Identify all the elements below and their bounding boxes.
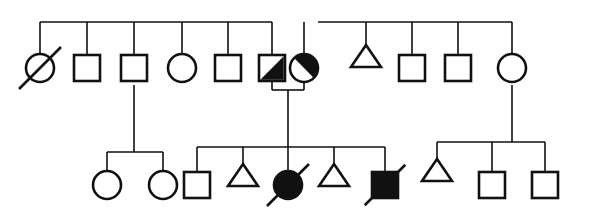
- pedigree-chart: [0, 0, 593, 213]
- symbol-square-II-9[interactable]: [479, 172, 505, 198]
- individual-II-2[interactable]: [149, 152, 177, 199]
- individual-II-4[interactable]: [228, 147, 258, 186]
- individual-II-10[interactable]: [532, 142, 558, 198]
- symbol-square-I-10[interactable]: [445, 55, 471, 81]
- individual-I-11[interactable]: [498, 22, 526, 82]
- individual-I-6[interactable]: [259, 22, 285, 81]
- individual-I-1[interactable]: [19, 22, 61, 89]
- symbol-triangle-I-8[interactable]: [351, 45, 381, 67]
- individual-I-3[interactable]: [121, 22, 147, 81]
- individual-II-1[interactable]: [93, 152, 121, 199]
- symbol-square-I-9[interactable]: [399, 55, 425, 81]
- connector-lines-layer: [40, 22, 545, 152]
- individual-II-3[interactable]: [184, 147, 210, 198]
- symbol-square-I-3[interactable]: [121, 55, 147, 81]
- individual-II-9[interactable]: [479, 142, 505, 198]
- individual-II-5[interactable]: [267, 147, 309, 206]
- symbol-square-I-2[interactable]: [74, 55, 100, 81]
- individual-I-2[interactable]: [74, 22, 100, 81]
- symbol-square-II-3[interactable]: [184, 172, 210, 198]
- individual-II-7[interactable]: [365, 147, 406, 205]
- individual-II-6[interactable]: [319, 147, 349, 186]
- symbol-square-I-5[interactable]: [215, 55, 241, 81]
- individual-I-7[interactable]: [290, 22, 318, 82]
- symbol-circle-II-1[interactable]: [93, 171, 121, 199]
- symbol-circle-I-11[interactable]: [498, 54, 526, 82]
- individual-II-8[interactable]: [422, 142, 452, 181]
- individual-I-4[interactable]: [168, 22, 196, 82]
- individual-I-5[interactable]: [215, 22, 241, 81]
- symbol-triangle-II-8[interactable]: [422, 159, 452, 181]
- symbol-triangle-II-4[interactable]: [228, 164, 258, 186]
- individual-I-8[interactable]: [351, 22, 381, 67]
- symbol-circle-II-2[interactable]: [149, 171, 177, 199]
- symbol-triangle-II-6[interactable]: [319, 164, 349, 186]
- individual-I-10[interactable]: [445, 22, 471, 81]
- individual-I-9[interactable]: [399, 22, 425, 81]
- pedigree-canvas: [0, 0, 593, 213]
- symbol-square-II-10[interactable]: [532, 172, 558, 198]
- symbol-circle-I-4[interactable]: [168, 54, 196, 82]
